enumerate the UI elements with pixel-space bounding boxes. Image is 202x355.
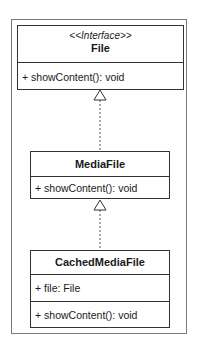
realization-connectors xyxy=(0,0,202,355)
realization-arrow-media-to-file xyxy=(94,90,106,151)
hollow-triangle-icon xyxy=(94,200,106,210)
realization-arrow-cached-to-media xyxy=(94,200,106,250)
hollow-triangle-icon xyxy=(94,90,106,100)
